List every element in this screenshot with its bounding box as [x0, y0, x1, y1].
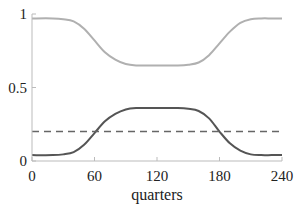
- x-axis-label: quarters: [131, 186, 183, 204]
- axes: [32, 14, 282, 161]
- x-tick-label: 120: [146, 168, 169, 184]
- light-gray-series-line: [32, 18, 282, 65]
- x-tick-label: 180: [208, 168, 231, 184]
- x-tick-label: 60: [87, 168, 102, 184]
- x-tick-label: 0: [28, 168, 36, 184]
- plot-lines: [32, 18, 282, 155]
- y-tick-label: 0: [20, 153, 28, 169]
- x-tick-label: 240: [271, 168, 294, 184]
- y-tick-label: 1: [20, 6, 28, 22]
- y-tick-label: 0.5: [8, 80, 27, 96]
- line-chart: 00.51 060120180240 quarters: [0, 0, 302, 209]
